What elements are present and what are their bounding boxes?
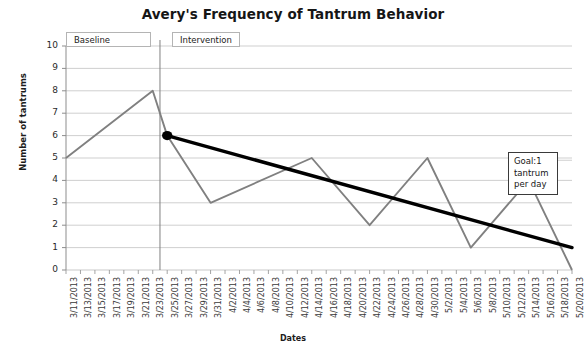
plot-area bbox=[0, 0, 586, 356]
phase-label-baseline: Baseline bbox=[66, 32, 151, 47]
phase-label-intervention: Intervention bbox=[172, 32, 240, 47]
intervention-start-marker bbox=[162, 131, 172, 140]
goal-annotation-box: Goal:1 tantrum per day bbox=[508, 152, 558, 195]
tantrum-frequency-chart: Avery's Frequency of Tantrum Behavior Nu… bbox=[0, 0, 586, 356]
